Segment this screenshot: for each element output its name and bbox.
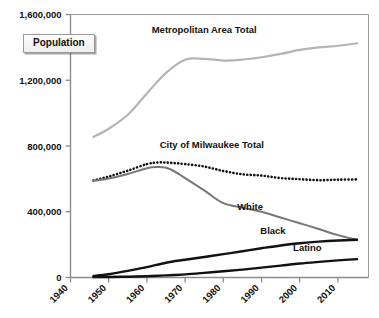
x-tick-label-1940: 1940 bbox=[47, 282, 70, 305]
x-tick-label-2010: 2010 bbox=[315, 282, 338, 305]
x-tick-label-1960: 1960 bbox=[124, 282, 147, 305]
x-tick-label-1950: 1950 bbox=[85, 282, 108, 305]
x-tick-label-1970: 1970 bbox=[162, 282, 185, 305]
series-label-white: White bbox=[237, 201, 263, 212]
x-tick-label-2000: 2000 bbox=[276, 282, 299, 305]
y-tick-label-800000: 800,000 bbox=[27, 141, 61, 152]
x-tick-label-1980: 1980 bbox=[200, 282, 223, 305]
series-label-metropolitan-area-total: Metropolitan Area Total bbox=[152, 24, 257, 35]
series-label-black: Black bbox=[260, 225, 286, 236]
series-line-white bbox=[93, 167, 357, 240]
series-line-metropolitan-area-total bbox=[93, 43, 357, 137]
series-label-latino: Latino bbox=[293, 242, 322, 253]
series-label-city-of-milwaukee-total: City of Milwaukee Total bbox=[160, 139, 264, 150]
y-tick-label-400000: 400,000 bbox=[27, 206, 61, 217]
y-axis-title-box: Population bbox=[23, 34, 95, 53]
population-line-chart: 0400,000800,0001,200,0001,600,0001940195… bbox=[0, 0, 379, 318]
y-tick-label-0: 0 bbox=[56, 272, 61, 283]
y-tick-label-1600000: 1,600,000 bbox=[19, 9, 61, 20]
x-tick-label-1990: 1990 bbox=[238, 282, 261, 305]
y-tick-label-1200000: 1,200,000 bbox=[19, 75, 61, 86]
series-line-latino bbox=[93, 259, 357, 277]
